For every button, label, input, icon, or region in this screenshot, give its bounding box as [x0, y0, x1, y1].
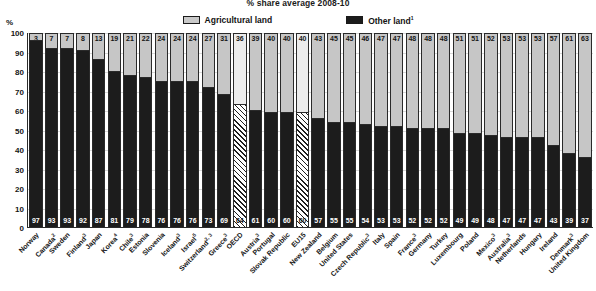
bar-column[interactable]: 4060: [279, 33, 295, 227]
bar-value-agricultural: 48: [407, 35, 419, 43]
stacked-bar[interactable]: 5149: [453, 33, 467, 227]
bar-column[interactable]: 4852: [436, 33, 452, 227]
bar-column[interactable]: 2476: [185, 33, 201, 227]
bar-column[interactable]: 1387: [91, 33, 107, 227]
bar-column[interactable]: 4555: [326, 33, 342, 227]
stacked-bar[interactable]: 397: [29, 33, 43, 227]
stacked-bar[interactable]: 2773: [202, 33, 216, 227]
bar-column[interactable]: 3664: [232, 33, 248, 227]
bar-value-agricultural: 40: [281, 35, 293, 43]
stacked-bar[interactable]: 4060: [264, 33, 278, 227]
bar-value-agricultural: 57: [548, 35, 560, 43]
x-axis-label-cell: Hungary: [530, 229, 546, 291]
bar-segment-other: 53: [375, 126, 387, 227]
stacked-bar[interactable]: 3169: [217, 33, 231, 227]
bar-column[interactable]: 2476: [169, 33, 185, 227]
bar-column[interactable]: 892: [75, 33, 91, 227]
bar-value-other: 97: [29, 217, 43, 225]
stacked-bar[interactable]: 3664: [233, 33, 247, 227]
bar-column[interactable]: 2476: [154, 33, 170, 227]
bar-column[interactable]: 2179: [122, 33, 138, 227]
bar-segment-agricultural: 52: [485, 34, 497, 135]
stacked-bar[interactable]: 4852: [421, 33, 435, 227]
stacked-bar[interactable]: 5248: [484, 33, 498, 227]
stacked-bar[interactable]: 4060: [296, 33, 310, 227]
bar-column[interactable]: 2773: [201, 33, 217, 227]
bar-column[interactable]: 6337: [577, 33, 593, 227]
stacked-bar[interactable]: 5347: [515, 33, 529, 227]
bar-column[interactable]: 6139: [561, 33, 577, 227]
stacked-bar[interactable]: 1981: [108, 33, 122, 227]
bar-column[interactable]: 4753: [373, 33, 389, 227]
stacked-bar[interactable]: 4555: [327, 33, 341, 227]
bar-segment-agricultural: 57: [548, 34, 560, 145]
bar-column[interactable]: 397: [28, 33, 44, 227]
stacked-bar[interactable]: 5149: [468, 33, 482, 227]
bar-value-other: 52: [421, 217, 435, 225]
x-axis-label-cell: Czech Republic3: [357, 229, 373, 291]
bar-segment-other: 60: [297, 112, 309, 227]
bar-column[interactable]: 4654: [357, 33, 373, 227]
bar-column[interactable]: 4555: [342, 33, 358, 227]
bar-column[interactable]: 793: [44, 33, 60, 227]
x-axis-label-cell: Estonia: [137, 229, 153, 291]
x-axis-label-cell: Luxembourg: [451, 229, 467, 291]
bar-segment-agricultural: 31: [218, 34, 230, 94]
bar-column[interactable]: 4852: [420, 33, 436, 227]
bar-column[interactable]: 4852: [405, 33, 421, 227]
bar-column[interactable]: 4753: [389, 33, 405, 227]
bar-value-other: 79: [123, 217, 137, 225]
bar-column[interactable]: 4357: [310, 33, 326, 227]
bar-column[interactable]: 5347: [499, 33, 515, 227]
bar-column[interactable]: 5149: [467, 33, 483, 227]
stacked-bar[interactable]: 4060: [280, 33, 294, 227]
stacked-bar[interactable]: 6337: [578, 33, 592, 227]
stacked-bar[interactable]: 4753: [374, 33, 388, 227]
bar-value-agricultural: 24: [187, 35, 199, 43]
stacked-bar[interactable]: 2476: [186, 33, 200, 227]
bar-column[interactable]: 793: [59, 33, 75, 227]
bar-segment-agricultural: 7: [61, 34, 73, 48]
stacked-bar[interactable]: 4753: [390, 33, 404, 227]
bar-segment-other: 64: [234, 104, 246, 227]
bar-value-agricultural: 53: [532, 35, 544, 43]
bar-value-other: 39: [562, 217, 576, 225]
stacked-bar[interactable]: 1387: [92, 33, 106, 227]
bar-column[interactable]: 5743: [546, 33, 562, 227]
bar-value-agricultural: 46: [360, 35, 372, 43]
stacked-bar[interactable]: 2476: [155, 33, 169, 227]
stacked-bar[interactable]: 4852: [437, 33, 451, 227]
bar-value-agricultural: 48: [422, 35, 434, 43]
stacked-bar[interactable]: 793: [60, 33, 74, 227]
bar-column[interactable]: 2278: [138, 33, 154, 227]
stacked-bar[interactable]: 793: [45, 33, 59, 227]
stacked-bar[interactable]: 4654: [359, 33, 373, 227]
stacked-bar[interactable]: 4852: [406, 33, 420, 227]
bar-value-other: 47: [500, 217, 514, 225]
stacked-bar[interactable]: 5743: [547, 33, 561, 227]
bar-segment-agricultural: 22: [140, 34, 152, 77]
stacked-bar[interactable]: 5347: [531, 33, 545, 227]
stacked-bar[interactable]: 4357: [311, 33, 325, 227]
y-axis-tick-70: 70: [15, 87, 24, 96]
stacked-bar[interactable]: 3961: [249, 33, 263, 227]
stacked-bar[interactable]: 6139: [562, 33, 576, 227]
stacked-bar[interactable]: 5347: [500, 33, 514, 227]
bar-column[interactable]: 3169: [216, 33, 232, 227]
bar-column[interactable]: 1981: [106, 33, 122, 227]
stacked-bar[interactable]: 892: [76, 33, 90, 227]
stacked-bar[interactable]: 2179: [123, 33, 137, 227]
bar-column[interactable]: 5347: [514, 33, 530, 227]
bar-value-agricultural: 52: [485, 35, 497, 43]
stacked-bar[interactable]: 2278: [139, 33, 153, 227]
bar-value-other: 53: [390, 217, 404, 225]
stacked-bar[interactable]: 2476: [170, 33, 184, 227]
bar-column[interactable]: 3961: [248, 33, 264, 227]
bar-column[interactable]: 4060: [295, 33, 311, 227]
bar-column[interactable]: 5149: [452, 33, 468, 227]
stacked-bar[interactable]: 4555: [343, 33, 357, 227]
bar-segment-agricultural: 53: [501, 34, 513, 137]
bar-column[interactable]: 4060: [263, 33, 279, 227]
bar-column[interactable]: 5248: [483, 33, 499, 227]
bar-column[interactable]: 5347: [530, 33, 546, 227]
